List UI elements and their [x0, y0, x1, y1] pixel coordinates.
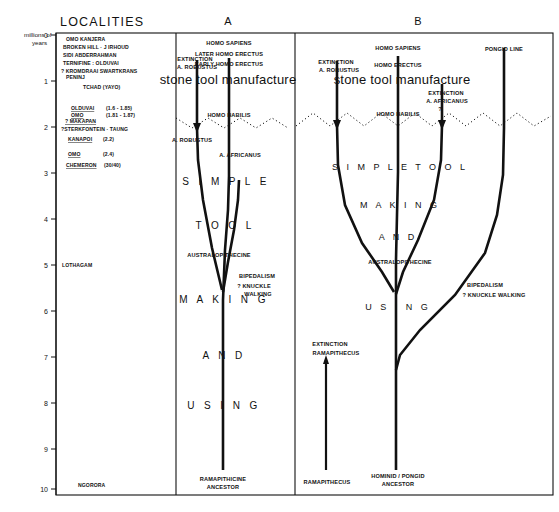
axis-tick-label: 0: [44, 32, 48, 39]
label-ancestor-word-a: ANCESTOR: [207, 484, 240, 490]
label-ancestor-b: ANCESTOR: [382, 481, 415, 487]
locality-item: SIDI ABDERRAHMAN: [63, 52, 117, 58]
lineage-main-stem-b: [396, 125, 398, 470]
label-knuckle-walking-b: ? KNUCKLE WALKING: [463, 292, 526, 298]
time-axis: millions of years 0 1 2 3 4 5 6: [24, 31, 56, 495]
axis-tick-label: 6: [44, 308, 48, 315]
axis-tick-6: 6: [44, 308, 56, 315]
locality-name: ? MAKAPAN: [65, 118, 96, 124]
axis-tick-3: 3: [44, 170, 56, 177]
label-homo-sapiens-a: HOMO SAPIENS: [206, 40, 251, 46]
band-word-b: U S I N G: [365, 302, 431, 312]
axis-tick-8: 8: [44, 400, 56, 407]
label-homo-habilis-b: HOMO HABILIS: [376, 111, 419, 117]
label-question-b: ?: [438, 106, 442, 112]
label-homo-sapiens-b: HOMO SAPIENS: [375, 45, 420, 51]
panel-b-letter: B: [414, 15, 421, 27]
locality-item: PENINJ: [66, 74, 85, 80]
axis-tick-5: 5: [44, 262, 56, 269]
axis-tick-4: 4: [44, 216, 56, 223]
label-australopithecine-a: AUSTRALOPITHECINE: [187, 252, 251, 258]
label-bipedalism-a: BIPEDALISM: [239, 273, 275, 279]
label-extinction-robustus-b: EXTINCTION: [318, 59, 353, 65]
band-word-a: U S I N G: [187, 400, 260, 411]
locality-name: CHEMERON: [66, 162, 97, 168]
axis-tick-7: 7: [44, 354, 56, 361]
label-ramapithecus-bottom-b: RAMAPITHECUS: [304, 479, 351, 485]
locality-name: ?STERKFONTEIN · TAUNG: [61, 126, 128, 132]
label-a-robustus-a: A. ROBUSTUS: [172, 137, 212, 143]
band-word-a: M A K I N G: [179, 294, 269, 305]
axis-tick-label: 5: [44, 262, 48, 269]
band-word-b: M A K I N G: [360, 200, 440, 210]
axis-tick-9: 9: [44, 446, 56, 453]
locality-lothagam: LOTHAGAM: [62, 262, 92, 268]
axis-tick-label: 4: [44, 216, 48, 223]
locality-item: OMO KANJERA: [66, 36, 106, 42]
label-extinction-africanus-b: EXTINCTION: [428, 90, 463, 96]
axis-tick-label: 9: [44, 446, 48, 453]
band-word-a: A N D: [202, 350, 245, 361]
axis-tick-label: 3: [44, 170, 48, 177]
label-bipedalism-b: BIPEDALISM: [467, 282, 503, 288]
label-ancestor-name-a: RAMAPITHICINE: [200, 476, 247, 482]
extinction-arrow-robustus-b: [333, 120, 341, 130]
axis-tick-label: 1: [44, 78, 48, 85]
locality-range: (30/40): [104, 162, 121, 168]
panel-a: HOMO SAPIENS LATER HOMO ERECTUS EARLY HO…: [160, 40, 297, 490]
locality-name: OLDUVAI: [71, 105, 95, 111]
label-ramapithecus-b: RAMAPITHECUS: [313, 350, 360, 356]
band-word-a: S I M P L E: [182, 176, 269, 187]
locality-range: (2.2): [103, 136, 114, 142]
panel-a-letter: A: [224, 15, 232, 27]
label-extinction-rama-b: EXTINCTION: [312, 341, 347, 347]
label-pongid-line-b: PONGID LINE: [485, 46, 523, 52]
axis-tick-2: 2: [44, 124, 56, 131]
axis-tick-label: 8: [44, 400, 48, 407]
label-a-robustus-top-a: A. ROBUSTUS: [177, 64, 217, 70]
extinction-arrow-rama-b: [323, 355, 329, 364]
evolution-chart-svg: millions of years 0 1 2 3 4 5 6: [0, 0, 559, 512]
banner-stone-tool-a: stone tool manufacture: [160, 72, 297, 87]
locality-ngorora: NGORORA: [78, 482, 106, 488]
locality-item: TCHAD (YAYO): [83, 84, 121, 90]
axis-tick-label: 10: [40, 486, 48, 493]
localities-column: OMO KANJERA BROKEN HILL · J IRHOUD SIDI …: [61, 36, 138, 488]
extinction-arrow-a: [193, 123, 201, 133]
banner-stone-tool-b: stone tool manufacture: [334, 72, 471, 87]
axis-caption-line2: years: [32, 39, 47, 46]
page-title: LOCALITIES: [60, 15, 144, 29]
axis-tick-label: 7: [44, 354, 48, 361]
locality-range: (1.6 - 1.85): [106, 105, 132, 111]
label-knuckle-a: ? KNUCKLE: [237, 283, 271, 289]
label-a-africanus-b: A. AFRICANUS: [426, 98, 468, 104]
axis-tick-label: 2: [44, 124, 48, 131]
axis-tick-1: 1: [44, 78, 56, 85]
label-australopithecine-b: AUSTRALOPITHECINE: [368, 259, 432, 265]
label-extinction-a: EXTINCTION: [177, 56, 212, 62]
panel-b: HOMO SAPIENS HOMO ERECTUS PONGID LINE EX…: [296, 45, 551, 487]
band-word-b: S I M P L E T O O L: [332, 162, 468, 172]
locality-item: TERNIFINE : OLDUVAI: [63, 60, 119, 66]
label-a-africanus-a: A. AFRICANUS: [219, 152, 261, 158]
figure-root: millions of years 0 1 2 3 4 5 6: [0, 0, 559, 512]
band-word-a: T O O L: [195, 220, 254, 231]
label-homo-habilis-a: HOMO HABILIS: [207, 112, 250, 118]
locality-item: BROKEN HILL · J IRHOUD: [63, 44, 129, 50]
panel-b-dotted-band: [296, 113, 551, 126]
locality-range: (1.81 - 1.87): [106, 112, 135, 118]
axis-tick-10: 10: [40, 486, 56, 493]
extinction-arrow-africanus-b: [438, 120, 446, 130]
band-word-b: A N D: [379, 232, 418, 242]
locality-name: OMO: [68, 151, 80, 157]
panel-a-dotted-band: [176, 118, 288, 128]
label-hominid-pongid-b: HOMINID / PONGID: [371, 473, 424, 479]
label-homo-erectus-b: HOMO ERECTUS: [374, 62, 422, 68]
locality-name: KANAPOI: [68, 136, 93, 142]
locality-range: (2.4): [103, 151, 114, 157]
